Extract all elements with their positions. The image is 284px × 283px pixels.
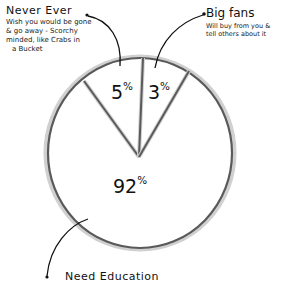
big-fans-title: Big fans: [206, 6, 254, 20]
never-ever-line-3: minded, like Crabs in: [6, 36, 92, 45]
never-ever-title: Never Ever: [6, 4, 72, 17]
slice-92-percent-sign: %: [137, 174, 147, 186]
slice-3-percent-sign: %: [160, 80, 170, 92]
slice-label-92: 92%: [113, 175, 147, 197]
slice-5-percent-sign: %: [123, 80, 133, 92]
need-education-title: Need Education: [65, 270, 159, 283]
never-ever-line-1: Wish you would be gone: [6, 18, 92, 27]
never-ever-arrow-dot: [85, 13, 88, 16]
slice-5-value: 5: [111, 81, 123, 103]
big-fans-description: Will buy from you & tell others about it: [206, 22, 270, 38]
never-ever-description: Wish you would be gone & go away - Scorc…: [6, 18, 92, 54]
slice-92-value: 92: [113, 175, 137, 197]
never-ever-line-4: a Bucket: [6, 45, 92, 54]
big-fans-line-1: Will buy from you &: [206, 22, 270, 30]
need-education-arrow-dot: [45, 275, 48, 278]
big-fans-line-2: tell others about it: [206, 30, 270, 38]
slice-label-5: 5%: [111, 81, 133, 103]
never-ever-line-2: & go away - Scorchy: [6, 27, 92, 36]
slice-label-3: 3%: [148, 81, 170, 103]
slice-3-value: 3: [148, 81, 160, 103]
